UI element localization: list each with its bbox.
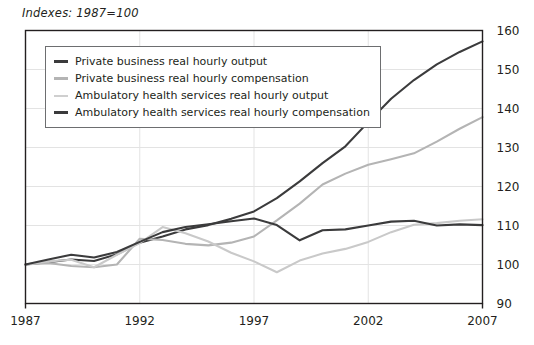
- x-axis-tick-label: 1997: [239, 314, 270, 328]
- y-axis-tick-label: 130: [497, 141, 520, 155]
- legend-color-swatch: [54, 77, 68, 80]
- legend-item-label: Ambulatory health services real hourly c…: [75, 106, 370, 119]
- x-axis-tick-label: 2007: [467, 314, 498, 328]
- y-axis-tick-label: 90: [497, 297, 512, 311]
- legend-color-swatch: [54, 95, 68, 97]
- y-axis-tick-label: 120: [497, 180, 520, 194]
- legend-item: Private business real hourly output: [54, 53, 370, 70]
- y-axis-tick-label: 140: [497, 102, 520, 116]
- legend-item: Ambulatory health services real hourly c…: [54, 104, 370, 121]
- legend-item-label: Ambulatory health services real hourly o…: [75, 89, 328, 102]
- y-axis-tick-label: 150: [497, 63, 520, 77]
- y-axis-tick-label: 100: [497, 258, 520, 272]
- legend-item: Ambulatory health services real hourly o…: [54, 87, 370, 104]
- y-axis-tick-label: 110: [497, 219, 520, 233]
- x-axis-tick-label: 2002: [353, 314, 384, 328]
- legend-item-label: Private business real hourly compensatio…: [75, 72, 309, 85]
- chart-container: Indexes: 1987=100 1601501401301201101009…: [0, 0, 534, 345]
- legend-color-swatch: [54, 60, 68, 63]
- x-axis-tick-label: 1987: [10, 314, 41, 328]
- y-axis-tick-label: 160: [497, 24, 520, 38]
- chart-legend: Private business real hourly output Priv…: [45, 46, 381, 128]
- x-axis-tick-labels: 19871992199720022007: [10, 314, 498, 328]
- x-axis-ticks: [26, 304, 483, 309]
- legend-color-swatch: [54, 111, 68, 114]
- x-axis-tick-label: 1992: [124, 314, 155, 328]
- y-axis-tick-labels: 16015014013012011010090: [497, 24, 520, 311]
- legend-item-label: Private business real hourly output: [75, 55, 267, 68]
- legend-item: Private business real hourly compensatio…: [54, 70, 370, 87]
